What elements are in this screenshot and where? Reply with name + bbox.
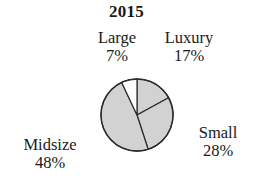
pie-label-midsize-name: Midsize: [8, 136, 92, 154]
pie-label-luxury: Luxury 17%: [152, 29, 226, 66]
pie-label-luxury-name: Luxury: [152, 29, 226, 47]
pie-label-large: Large 7%: [86, 29, 148, 66]
pie-label-midsize-value: 48%: [8, 154, 92, 172]
pie-label-large-name: Large: [86, 29, 148, 47]
pie-label-small-value: 28%: [186, 142, 250, 160]
pie-chart-figure: 2015 Large 7% Luxury 17% Small 28% Midsi…: [0, 0, 253, 191]
pie-label-midsize: Midsize 48%: [8, 136, 92, 173]
pie-label-small-name: Small: [186, 124, 250, 142]
pie-label-large-value: 7%: [86, 47, 148, 65]
pie-label-luxury-value: 17%: [152, 47, 226, 65]
pie-label-small: Small 28%: [186, 124, 250, 161]
